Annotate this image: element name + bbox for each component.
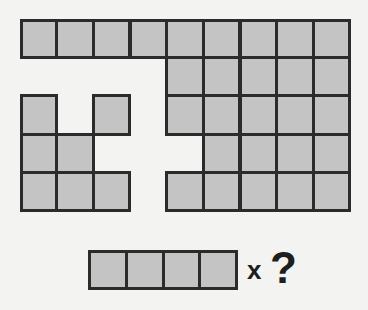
bar-segment bbox=[198, 253, 235, 287]
grid-cell bbox=[202, 19, 242, 59]
grid-cell bbox=[55, 19, 95, 59]
grid-cell bbox=[92, 94, 132, 135]
grid-cell bbox=[239, 56, 279, 97]
grid-cell bbox=[275, 171, 315, 212]
bar-segment bbox=[125, 253, 162, 287]
grid-cell bbox=[202, 133, 242, 174]
grid-cell bbox=[165, 94, 205, 135]
grid-cell bbox=[202, 56, 242, 97]
grid-cell bbox=[92, 19, 132, 59]
grid-cell bbox=[55, 171, 95, 212]
grid-cell bbox=[312, 171, 352, 212]
shaded-grid bbox=[20, 19, 350, 211]
grid-cell bbox=[129, 19, 169, 59]
grid-cell bbox=[55, 133, 95, 174]
grid-cell bbox=[239, 19, 279, 59]
grid-cell bbox=[239, 94, 279, 135]
grid-cell bbox=[20, 94, 58, 135]
grid-cell bbox=[275, 94, 315, 135]
four-cell-bar bbox=[88, 250, 238, 290]
grid-cell bbox=[275, 133, 315, 174]
grid-cell bbox=[239, 133, 279, 174]
multiply-sign: x bbox=[247, 255, 261, 285]
grid-cell bbox=[20, 133, 58, 174]
grid-cell bbox=[202, 171, 242, 212]
grid-cell bbox=[20, 19, 58, 59]
grid-cell bbox=[275, 19, 315, 59]
grid-cell bbox=[165, 56, 205, 97]
grid-cell bbox=[165, 19, 205, 59]
question-mark: ? bbox=[270, 244, 297, 292]
bar-segment bbox=[91, 253, 125, 287]
grid-cell bbox=[312, 56, 352, 97]
grid-cell bbox=[312, 19, 352, 59]
grid-cell bbox=[312, 133, 352, 174]
grid-cell bbox=[165, 171, 205, 212]
grid-cell bbox=[92, 171, 132, 212]
grid-cell bbox=[202, 94, 242, 135]
grid-cell bbox=[239, 171, 279, 212]
grid-cell bbox=[20, 171, 58, 212]
grid-cell bbox=[275, 56, 315, 97]
grid-cell bbox=[312, 94, 352, 135]
bar-segment bbox=[162, 253, 199, 287]
